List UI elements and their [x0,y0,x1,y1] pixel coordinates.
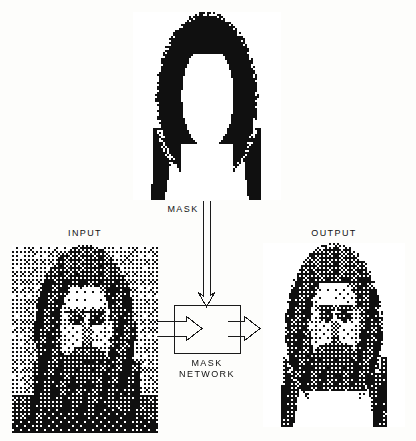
mask-image [133,12,281,200]
network-caption-line1: MASK [157,358,257,369]
input-caption: INPUT [12,228,158,238]
network-caption: MASK NETWORK [157,358,257,380]
input-image [12,245,158,433]
mask-caption: MASK [153,204,213,214]
network-caption-line2: NETWORK [157,369,257,380]
input-to-network-arrow [157,316,202,341]
network-to-output-arrow [228,316,260,341]
figure-canvas: MASK INPUT OUTPUT MASK NETWORK [0,0,416,441]
output-image [263,243,405,427]
mask-network-box [174,305,240,353]
mask-to-network-arrow [198,201,215,307]
output-caption: OUTPUT [263,228,405,238]
